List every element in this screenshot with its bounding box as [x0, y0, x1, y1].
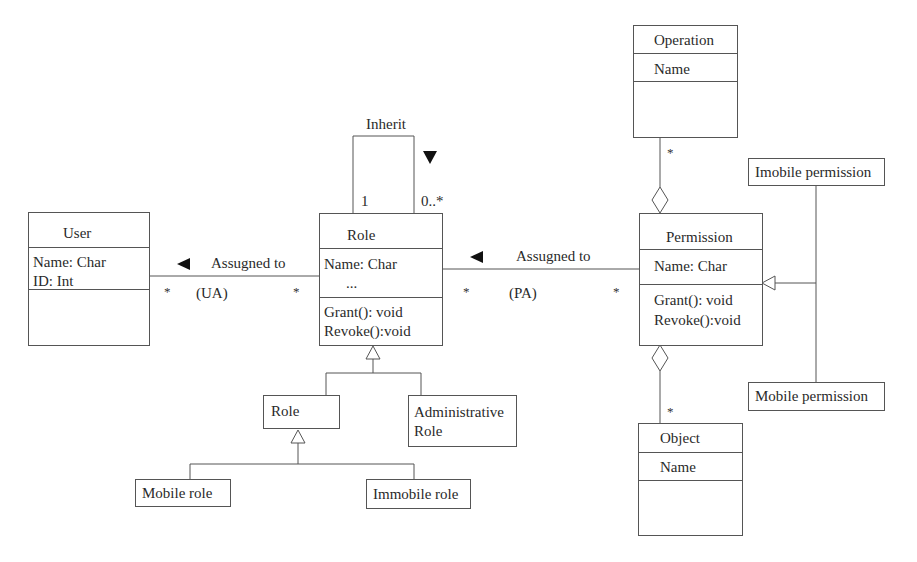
- pa-association-label: Assugned to: [516, 248, 591, 265]
- class-operation-divider: [634, 53, 737, 54]
- class-permission-divider: [640, 249, 762, 250]
- class-object[interactable]: Object Name: [638, 423, 743, 536]
- class-permission-name: Permission: [666, 229, 733, 246]
- operation-multiplicity: *: [667, 146, 674, 159]
- class-operation-attr: Name: [654, 61, 690, 78]
- class-role-name: Role: [347, 227, 375, 244]
- class-immobile-role-name: Immobile role: [373, 486, 458, 503]
- inherit-multiplicity-right: 0..*: [421, 193, 444, 210]
- class-permission-divider: [640, 284, 762, 285]
- class-operation-name: Operation: [654, 32, 714, 49]
- class-administrative-role-line1: Administrative: [414, 404, 504, 421]
- class-role[interactable]: Role Name: Char ... Grant(): void Revoke…: [319, 213, 443, 346]
- generalization-branch-role: [326, 373, 421, 395]
- class-role-op: Revoke():void: [324, 323, 411, 340]
- class-sub-role[interactable]: Role: [263, 395, 340, 429]
- pa-multiplicity-right: *: [613, 285, 620, 298]
- class-object-name: Object: [660, 430, 700, 447]
- class-administrative-role[interactable]: Administrative Role: [408, 395, 517, 447]
- pa-multiplicity-left: *: [463, 285, 470, 298]
- class-user-divider: [29, 247, 149, 248]
- aggregation-diamond-top: [652, 187, 668, 213]
- class-administrative-role-line2: Role: [414, 423, 442, 440]
- class-role-divider: [320, 297, 442, 298]
- pa-association-abbrev: (PA): [509, 285, 537, 302]
- class-role-attr: Name: Char: [324, 256, 397, 273]
- class-mobile-permission-name: Mobile permission: [755, 388, 868, 405]
- ua-association-label: Assugned to: [211, 255, 286, 272]
- class-mobile-role-name: Mobile role: [142, 485, 212, 502]
- class-role-op: Grant(): void: [324, 304, 403, 321]
- class-imobile-permission-name: Imobile permission: [755, 164, 871, 181]
- aggregation-diamond-bottom: [652, 345, 668, 371]
- class-sub-role-name: Role: [271, 403, 299, 420]
- class-permission-op: Grant(): void: [654, 292, 733, 309]
- pa-direction-arrow-icon: [470, 251, 483, 263]
- object-multiplicity: *: [667, 405, 674, 418]
- class-user-name: User: [63, 225, 91, 242]
- class-permission-op: Revoke():void: [654, 312, 741, 329]
- class-immobile-role[interactable]: Immobile role: [366, 479, 471, 509]
- generalization-triangle-permission: [762, 276, 775, 290]
- class-mobile-permission[interactable]: Mobile permission: [748, 382, 885, 411]
- generalization-branch-subrole: [190, 464, 414, 479]
- class-permission-attr: Name: Char: [654, 258, 727, 275]
- inherit-direction-arrow-icon: [423, 151, 437, 164]
- class-object-divider: [639, 480, 742, 481]
- ua-multiplicity-left: *: [164, 285, 171, 298]
- class-permission[interactable]: Permission Name: Char Grant(): void Revo…: [639, 213, 763, 346]
- class-user-attr: Name: Char: [33, 254, 106, 271]
- class-role-divider: [320, 248, 442, 249]
- class-mobile-role[interactable]: Mobile role: [135, 479, 231, 507]
- class-user[interactable]: User Name: Char ID: Int: [28, 212, 150, 346]
- ua-association-abbrev: (UA): [196, 285, 228, 302]
- class-object-divider: [639, 452, 742, 453]
- generalization-triangle-subrole: [291, 430, 305, 443]
- ua-multiplicity-right: *: [293, 285, 300, 298]
- ua-direction-arrow-icon: [177, 258, 190, 270]
- class-operation[interactable]: Operation Name: [633, 25, 738, 138]
- class-object-attr: Name: [660, 459, 696, 476]
- class-role-attr: ...: [346, 275, 357, 292]
- class-user-attr: ID: Int: [33, 273, 73, 290]
- inherit-label: Inherit: [366, 116, 406, 133]
- class-imobile-permission[interactable]: Imobile permission: [748, 158, 885, 186]
- generalization-triangle-role: [366, 346, 380, 359]
- class-operation-divider: [634, 81, 737, 82]
- class-user-divider: [29, 289, 149, 290]
- inherit-multiplicity-left: 1: [361, 193, 369, 210]
